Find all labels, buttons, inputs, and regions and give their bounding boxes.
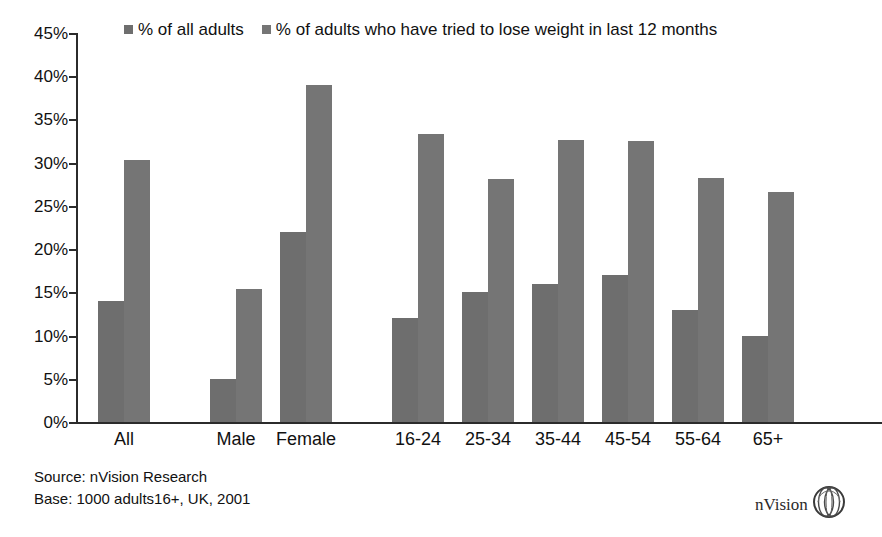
x-axis-tick-label: 16-24 bbox=[395, 428, 441, 450]
y-axis-tick-label: 45% bbox=[8, 25, 68, 42]
y-axis-tick-label: 35% bbox=[8, 111, 68, 128]
y-axis-tick bbox=[69, 206, 76, 208]
y-axis-tick bbox=[69, 379, 76, 381]
bar bbox=[532, 284, 558, 422]
y-axis-tick-label: 20% bbox=[8, 241, 68, 258]
y-axis-tick-label: 10% bbox=[8, 327, 68, 344]
bar bbox=[602, 275, 628, 422]
y-axis-tick bbox=[69, 336, 76, 338]
nvision-sphere-logo-icon bbox=[812, 485, 846, 523]
brand-logo: nVision bbox=[755, 485, 846, 523]
x-axis-tick-label: 35-44 bbox=[535, 428, 581, 450]
y-axis-tick-label: 15% bbox=[8, 284, 68, 301]
x-axis-labels: AllMaleFemale16-2425-3435-4445-5455-6465… bbox=[76, 428, 882, 456]
x-axis-tick-label: Female bbox=[276, 428, 336, 450]
y-axis-tick bbox=[69, 33, 76, 35]
y-axis-tick bbox=[69, 163, 76, 165]
bar bbox=[392, 318, 418, 422]
bar bbox=[558, 140, 584, 422]
bar bbox=[418, 134, 444, 422]
bar bbox=[98, 301, 124, 422]
source-note: Source: nVision Research bbox=[34, 466, 250, 488]
x-axis-line bbox=[76, 422, 882, 424]
bar bbox=[124, 160, 150, 422]
y-axis-tick-label: 0% bbox=[8, 414, 68, 431]
base-note: Base: 1000 adults16+, UK, 2001 bbox=[34, 488, 250, 510]
chart-footnotes: Source: nVision Research Base: 1000 adul… bbox=[34, 466, 250, 510]
y-axis-tick bbox=[69, 249, 76, 251]
bar bbox=[236, 289, 262, 422]
bar bbox=[210, 379, 236, 422]
x-axis-tick-label: 45-54 bbox=[605, 428, 651, 450]
bar bbox=[672, 310, 698, 422]
x-axis-tick-label: 55-64 bbox=[675, 428, 721, 450]
y-axis-line bbox=[76, 33, 78, 422]
bar bbox=[462, 292, 488, 422]
plot-area bbox=[76, 33, 882, 422]
x-axis-tick-label: 65+ bbox=[753, 428, 784, 450]
y-axis-labels: 45%40%35%30%25%20%15%10%5%0% bbox=[6, 33, 68, 422]
y-axis-tick-label: 30% bbox=[8, 154, 68, 171]
brand-name: nVision bbox=[755, 496, 808, 513]
y-axis-tick bbox=[69, 292, 76, 294]
y-axis-tick-label: 40% bbox=[8, 68, 68, 85]
bar bbox=[698, 178, 724, 422]
bar bbox=[280, 232, 306, 422]
y-axis-tick bbox=[69, 119, 76, 121]
x-axis-tick-label: 25-34 bbox=[465, 428, 511, 450]
bar bbox=[742, 336, 768, 422]
bar bbox=[768, 192, 794, 422]
y-axis-tick-label: 5% bbox=[8, 370, 68, 387]
x-axis-tick-label: All bbox=[114, 428, 134, 450]
bar bbox=[306, 85, 332, 422]
y-axis-tick bbox=[69, 422, 76, 424]
bar bbox=[628, 141, 654, 422]
bar bbox=[488, 179, 514, 422]
y-axis-tick-label: 25% bbox=[8, 197, 68, 214]
y-axis-tick bbox=[69, 76, 76, 78]
x-axis-tick-label: Male bbox=[216, 428, 255, 450]
